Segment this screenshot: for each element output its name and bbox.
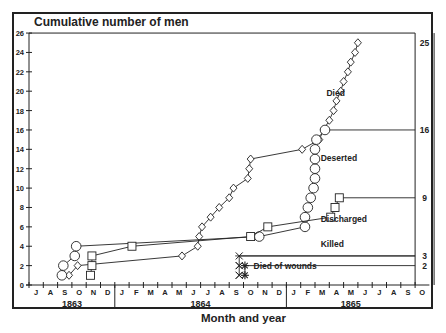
square-marker <box>247 233 255 241</box>
y-tick-label: 26 <box>16 29 24 38</box>
diamond-marker <box>347 58 354 66</box>
circle-marker <box>57 271 67 281</box>
final-value-label: 25 <box>420 38 430 48</box>
month-label: N <box>91 288 96 297</box>
final-value-label: 3 <box>422 251 427 261</box>
square-marker <box>264 223 272 231</box>
circle-marker <box>310 145 320 155</box>
month-label: F <box>134 288 139 297</box>
y-tick-label: 8 <box>20 203 24 212</box>
month-label: D <box>277 288 283 297</box>
month-label: M <box>319 288 325 297</box>
month-label: M <box>176 288 182 297</box>
month-label: S <box>405 288 410 297</box>
month-label: S <box>234 288 239 297</box>
month-label: J <box>377 288 381 297</box>
x-axis-title: Month and year <box>201 312 287 324</box>
diamond-marker <box>194 242 201 250</box>
month-label: N <box>262 288 267 297</box>
month-label: F <box>306 288 311 297</box>
diamond-marker <box>247 155 254 163</box>
circle-marker <box>309 183 319 193</box>
circle-marker <box>306 193 316 203</box>
cumulative-chart: Cumulative number of men0246810121416182… <box>0 0 446 333</box>
square-marker <box>335 194 343 202</box>
month-label: J <box>363 288 367 297</box>
circle-marker <box>320 125 330 135</box>
diamond-marker <box>326 116 333 124</box>
final-value-label: 2 <box>422 261 427 271</box>
y-tick-label: 18 <box>16 107 24 116</box>
y-tick-label: 2 <box>20 262 24 271</box>
month-label: M <box>147 288 153 297</box>
month-label: O <box>419 288 425 297</box>
month-label: D <box>105 288 111 297</box>
month-label: J <box>291 288 295 297</box>
y-tick-label: 16 <box>16 126 24 135</box>
diamond-marker <box>354 39 361 47</box>
final-value-label: 9 <box>422 193 427 203</box>
chart-title: Cumulative number of men <box>34 15 189 29</box>
y-tick-label: 10 <box>16 184 24 193</box>
series-label: Deserted <box>321 153 357 163</box>
month-label: O <box>76 288 82 297</box>
circle-marker <box>71 241 81 251</box>
series-label: Died of wounds <box>254 261 318 271</box>
y-tick-label: 24 <box>16 48 25 57</box>
diamond-marker <box>179 252 186 260</box>
y-tick-label: 6 <box>20 223 24 232</box>
month-label: J <box>34 288 38 297</box>
circle-marker <box>303 203 313 213</box>
month-label: A <box>334 288 340 297</box>
square-marker <box>128 242 136 250</box>
diamond-marker <box>244 174 251 182</box>
y-tick-label: 14 <box>16 145 25 154</box>
square-marker <box>88 252 96 260</box>
circle-marker <box>310 154 320 164</box>
circle-marker <box>312 135 322 145</box>
diamond-marker <box>246 165 253 173</box>
y-tick-label: 20 <box>16 87 24 96</box>
diamond-marker <box>299 145 306 153</box>
series-label: Discharged <box>321 214 367 224</box>
square-marker <box>331 203 339 211</box>
circle-marker <box>300 222 310 232</box>
year-label: 1864 <box>191 299 211 309</box>
month-label: A <box>48 288 54 297</box>
month-label: A <box>219 288 225 297</box>
circle-marker <box>59 261 69 271</box>
month-label: A <box>391 288 397 297</box>
final-value-label: 16 <box>420 125 430 135</box>
circle-marker <box>70 251 80 261</box>
year-label: 1863 <box>62 299 82 309</box>
diamond-marker <box>230 184 237 192</box>
diamond-marker <box>340 78 347 86</box>
diamond-marker <box>330 107 337 115</box>
y-tick-label: 4 <box>20 242 25 251</box>
month-label: A <box>162 288 168 297</box>
diamond-marker <box>352 48 359 56</box>
month-label: O <box>248 288 254 297</box>
y-tick-label: 12 <box>16 165 24 174</box>
y-tick-label: 22 <box>16 68 24 77</box>
month-label: S <box>62 288 67 297</box>
month-label: J <box>206 288 210 297</box>
month-label: J <box>120 288 124 297</box>
circle-marker <box>310 174 320 184</box>
diamond-marker <box>344 68 351 76</box>
y-tick-label: 0 <box>20 281 24 290</box>
series-label: Killed <box>321 239 344 249</box>
month-label: J <box>191 288 195 297</box>
year-label: 1865 <box>341 299 361 309</box>
month-label: M <box>348 288 354 297</box>
circle-marker <box>310 164 320 174</box>
square-marker <box>88 262 96 270</box>
diamond-marker <box>333 97 340 105</box>
series-label: Died <box>326 88 344 98</box>
square-marker <box>86 271 94 279</box>
